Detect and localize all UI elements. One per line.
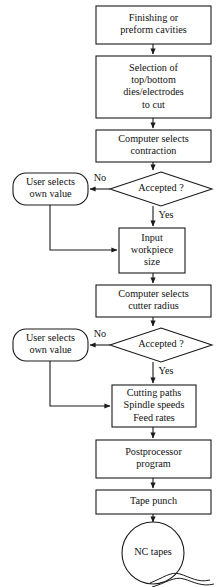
flowchart-svg: Finishing orpreform cavitiesSelection of… (0, 0, 221, 587)
nodes-layer: Finishing orpreform cavitiesSelection of… (13, 6, 212, 584)
node-computer-selects-contraction: Computer selectscontraction (96, 130, 211, 162)
node-nc-tapes: NC tapes (122, 522, 184, 584)
edge-uservalue1-to-inputsize (50, 205, 117, 250)
node-cutting-paths-spindle-speeds-feed-rates-label-line-1: Spindle speeds (124, 399, 185, 410)
node-computer-selects-cutter-radius-label-line-1: cutter radius (128, 300, 179, 311)
node-user-selects-own-value-contraction-label-line-0: User selects (26, 176, 75, 187)
node-computer-selects-contraction-label-line-1: contraction (131, 145, 177, 156)
edge-label-yes-contraction: Yes (159, 209, 174, 220)
node-postprocessor-program: Postprocessorprogram (96, 440, 211, 478)
node-selection-of-dies-electrodes-label-line-1: top/bottom (131, 74, 176, 85)
node-computer-selects-cutter-radius: Computer selectscutter radius (96, 285, 211, 317)
node-computer-selects-cutter-radius-label-line-0: Computer selects (118, 288, 188, 299)
node-input-workpiece-size-label-line-0: Input (141, 232, 163, 243)
decision-accepted-contraction: Accepted ? (110, 172, 212, 206)
edge-uservalue2-to-cuttingpaths (50, 361, 110, 406)
decision-accepted-contraction-label-line-0: Accepted ? (138, 182, 184, 193)
edge-label-no-cutter: No (94, 328, 106, 339)
node-user-selects-own-value-contraction: User selectsown value (13, 173, 88, 205)
edge-label-no-contraction: No (94, 172, 106, 183)
node-tape-punch: Tape punch (96, 490, 211, 514)
node-nc-tapes-label-line-0: NC tapes (134, 546, 172, 557)
node-postprocessor-program-label-line-0: Postprocessor (125, 446, 182, 457)
node-user-selects-own-value-cutter-label-line-1: own value (29, 344, 72, 355)
node-finishing-or-preform-cavities: Finishing orpreform cavities (96, 6, 211, 44)
node-selection-of-dies-electrodes-label-line-0: Selection of (129, 62, 179, 73)
node-cutting-paths-spindle-speeds-feed-rates: Cutting pathsSpindle speedsFeed rates (112, 385, 196, 427)
node-user-selects-own-value-contraction-label-line-1: own value (29, 188, 72, 199)
node-postprocessor-program-label-line-1: program (136, 458, 171, 469)
node-user-selects-own-value-cutter-label-line-0: User selects (26, 332, 75, 343)
decision-accepted-cutter-radius-label-line-0: Accepted ? (138, 338, 184, 349)
flowchart-container: Finishing orpreform cavitiesSelection of… (0, 0, 221, 587)
node-selection-of-dies-electrodes: Selection oftop/bottomdies/electrodesto … (96, 56, 211, 118)
node-finishing-or-preform-cavities-label-line-0: Finishing or (129, 12, 179, 23)
node-computer-selects-contraction-label-line-0: Computer selects (118, 133, 188, 144)
node-selection-of-dies-electrodes-label-line-3: to cut (142, 99, 165, 110)
node-input-workpiece-size-label-line-2: size (144, 256, 160, 267)
node-input-workpiece-size-label-line-1: workpiece (131, 244, 174, 255)
decision-accepted-cutter-radius: Accepted ? (110, 328, 212, 362)
node-user-selects-own-value-cutter: User selectsown value (13, 329, 88, 361)
node-finishing-or-preform-cavities-label-line-1: preform cavities (120, 24, 187, 35)
node-input-workpiece-size: Inputworkpiecesize (119, 228, 185, 273)
edge-label-yes-cutter: Yes (159, 365, 174, 376)
node-cutting-paths-spindle-speeds-feed-rates-label-line-0: Cutting paths (127, 387, 182, 398)
node-cutting-paths-spindle-speeds-feed-rates-label-line-2: Feed rates (133, 412, 175, 423)
node-selection-of-dies-electrodes-label-line-2: dies/electrodes (123, 86, 184, 97)
node-tape-punch-label-line-0: Tape punch (130, 495, 177, 506)
